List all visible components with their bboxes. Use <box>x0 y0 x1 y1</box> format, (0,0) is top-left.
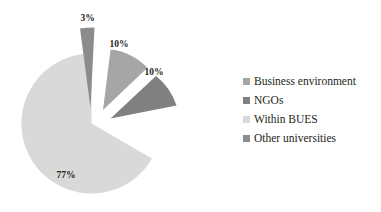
pie-label-business-environment: 10% <box>110 39 129 49</box>
legend-item-label: Within BUES <box>254 113 318 126</box>
chart-legend: Business environment NGOs Within BUES Ot… <box>243 74 381 145</box>
legend-swatch-icon <box>243 135 250 142</box>
pie-plot-area: 3% 10% 10% 77% <box>0 0 230 212</box>
pie-chart-figure: 3% 10% 10% 77% Business environment NGOs… <box>0 0 381 212</box>
legend-item-label: Business environment <box>254 75 356 88</box>
pie-label-other-universities: 3% <box>80 13 94 23</box>
pie-label-ngos: 10% <box>145 67 164 77</box>
legend-item-ngos[interactable]: NGOs <box>243 93 381 107</box>
legend-item-within-bues[interactable]: Within BUES <box>243 112 381 126</box>
legend-item-business-environment[interactable]: Business environment <box>243 74 381 88</box>
legend-item-other-universities[interactable]: Other universities <box>243 131 381 145</box>
legend-swatch-icon <box>243 116 250 123</box>
pie-svg: 3% 10% 10% 77% <box>0 0 230 212</box>
legend-swatch-icon <box>243 97 250 104</box>
legend-swatch-icon <box>243 78 250 85</box>
legend-item-label: Other universities <box>254 132 336 145</box>
legend-item-label: NGOs <box>254 94 283 107</box>
pie-label-within-bues: 77% <box>57 170 76 180</box>
